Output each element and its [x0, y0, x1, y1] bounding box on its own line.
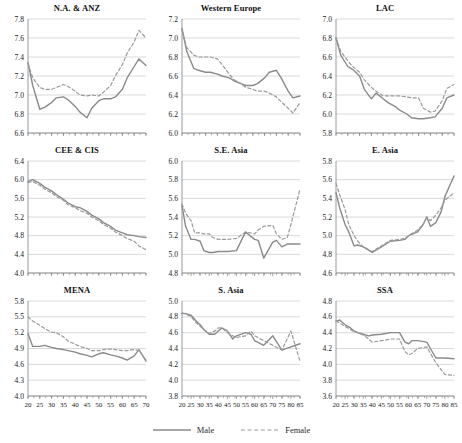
y-tick-label: 6.6: [15, 129, 25, 138]
y-tick-label: 7.0: [323, 15, 333, 24]
x-tick-label: 30: [351, 401, 359, 409]
x-tick-label: 50: [95, 401, 103, 409]
y-tick-label: 6.0: [169, 129, 179, 138]
x-tick-label: 20: [333, 401, 341, 409]
panel-title-ssa: SSA: [308, 282, 462, 297]
plot-svg-na_anz: 6.66.87.07.27.47.67.8: [0, 15, 154, 143]
legend: MaleFemale: [0, 417, 462, 443]
chart-panel-western_europe: Western Europe6.06.26.46.66.87.07.2: [154, 0, 308, 142]
x-tick-label: 30: [48, 401, 56, 409]
series-line-female: [182, 313, 300, 361]
x-tick-label: 30: [197, 401, 205, 409]
x-tick-label: 25: [342, 401, 350, 409]
y-tick-label: 5.8: [323, 157, 333, 166]
x-tick-label: 65: [260, 401, 268, 409]
y-tick-label: 5.8: [169, 175, 179, 184]
x-tick-label: 20: [179, 401, 187, 409]
panel-title-s_asia: S. Asia: [154, 282, 308, 297]
x-tick-label: 60: [405, 401, 413, 409]
y-tick-label: 5.2: [15, 213, 25, 222]
y-tick-label: 7.4: [15, 53, 25, 62]
y-tick-label: 5.0: [169, 297, 179, 306]
series-line-female: [28, 30, 146, 96]
legend-label: Male: [197, 425, 214, 435]
y-tick-label: 7.8: [15, 15, 25, 24]
y-tick-label: 6.4: [15, 157, 25, 166]
series-line-female: [336, 38, 454, 112]
x-tick-label: 55: [396, 401, 404, 409]
x-tick-label: 55: [107, 401, 115, 409]
y-tick-label: 6.6: [169, 72, 179, 81]
y-tick-label: 6.4: [323, 72, 333, 81]
x-tick-label: 85: [297, 401, 305, 409]
y-tick-label: 7.0: [15, 91, 25, 100]
y-tick-label: 6.0: [169, 157, 179, 166]
y-tick-label: 4.6: [169, 328, 179, 337]
y-tick-label: 3.8: [169, 392, 179, 401]
plot-area-e_asia: 4.64.85.05.25.45.65.8: [308, 157, 462, 283]
y-tick-label: 4.8: [323, 250, 333, 259]
x-tick-label: 75: [432, 401, 440, 409]
y-tick-label: 4.6: [323, 312, 333, 321]
panel-title-lac: LAC: [308, 0, 462, 15]
y-tick-label: 5.4: [169, 213, 179, 222]
chart-panel-s_asia: S. Asia3.84.04.24.44.64.85.0202530354045…: [154, 282, 308, 415]
y-tick-label: 5.8: [323, 129, 333, 138]
y-tick-label: 5.0: [169, 250, 179, 259]
panel-title-cee_cis: CEE & CIS: [0, 142, 154, 157]
y-tick-label: 6.8: [323, 34, 333, 43]
x-tick-label: 35: [360, 401, 368, 409]
x-tick-label: 40: [215, 401, 223, 409]
y-tick-label: 4.2: [323, 344, 333, 353]
series-line-female: [182, 30, 300, 113]
plot-svg-e_asia: 4.64.85.05.25.45.65.8: [308, 157, 462, 283]
plot-area-ssa: 3.63.84.04.24.44.64.82025303540455055606…: [308, 297, 462, 416]
plot-svg-western_europe: 6.06.26.46.66.87.07.2: [154, 15, 308, 143]
x-tick-label: 65: [131, 401, 139, 409]
y-tick-label: 5.2: [323, 213, 333, 222]
y-tick-label: 7.2: [169, 15, 179, 24]
y-tick-label: 3.6: [323, 392, 333, 401]
legend-item-female: Female: [240, 425, 310, 435]
y-tick-label: 6.0: [15, 175, 25, 184]
plot-svg-ssa: 3.63.84.04.24.44.64.82025303540455055606…: [308, 297, 462, 416]
y-tick-label: 5.6: [323, 175, 333, 184]
y-tick-label: 4.9: [15, 344, 25, 353]
x-tick-label: 40: [72, 401, 80, 409]
plot-area-cee_cis: 4.04.44.85.25.66.06.4: [0, 157, 154, 283]
x-tick-label: 85: [451, 401, 459, 409]
x-tick-label: 35: [60, 401, 68, 409]
panel-grid: N.A. & ANZ6.66.87.07.27.47.67.8Western E…: [0, 0, 462, 415]
series-line-male: [336, 38, 454, 119]
y-tick-label: 5.2: [15, 328, 25, 337]
y-tick-label: 6.2: [169, 110, 179, 119]
panel-title-se_asia: S.E. Asia: [154, 142, 308, 157]
x-tick-label: 45: [378, 401, 386, 409]
x-tick-label: 55: [242, 401, 250, 409]
panel-title-na_anz: N.A. & ANZ: [0, 0, 154, 15]
x-tick-label: 80: [441, 401, 449, 409]
chart-panel-na_anz: N.A. & ANZ6.66.87.07.27.47.67.8: [0, 0, 154, 142]
plot-svg-se_asia: 4.85.05.25.45.65.86.0: [154, 157, 308, 283]
series-line-female: [28, 182, 146, 250]
chart-panel-ssa: SSA3.63.84.04.24.44.64.82025303540455055…: [308, 282, 462, 415]
plot-svg-lac: 5.86.06.26.46.66.87.0: [308, 15, 462, 143]
series-line-male: [28, 334, 146, 361]
y-tick-label: 5.4: [323, 194, 333, 203]
small-multiples-figure: N.A. & ANZ6.66.87.07.27.47.67.8Western E…: [0, 0, 462, 443]
plot-area-western_europe: 6.06.26.46.66.87.07.2: [154, 15, 308, 143]
y-tick-label: 4.6: [15, 360, 25, 369]
chart-panel-se_asia: S.E. Asia4.85.05.25.45.65.86.0: [154, 142, 308, 282]
solid-line-swatch: [152, 425, 192, 435]
dashed-line-swatch: [240, 425, 280, 435]
series-line-male: [182, 29, 300, 98]
y-tick-label: 7.0: [169, 34, 179, 43]
x-tick-label: 20: [25, 401, 33, 409]
plot-svg-cee_cis: 4.04.44.85.25.66.06.4: [0, 157, 154, 283]
series-line-male: [336, 320, 454, 359]
x-tick-label: 45: [84, 401, 92, 409]
x-tick-label: 45: [224, 401, 232, 409]
series-line-male: [336, 176, 454, 253]
series-line-male: [28, 59, 146, 118]
y-tick-label: 6.2: [323, 91, 333, 100]
